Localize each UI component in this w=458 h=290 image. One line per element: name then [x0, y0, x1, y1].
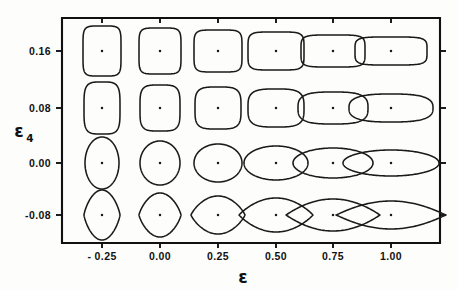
shape-center-dot-r2-c1 — [159, 162, 162, 165]
shape-cell-r1-c2 — [195, 87, 241, 129]
shape-cell-r3-c3 — [239, 198, 313, 232]
shape-row-0p00 — [85, 137, 439, 189]
shape-cell-r2-c5 — [343, 150, 439, 176]
shape-row-0p08 — [84, 82, 433, 134]
shape-cell-r1-c0 — [84, 82, 120, 134]
shape-center-dot-r3-c1 — [159, 214, 162, 217]
shape-contours — [83, 26, 446, 240]
shape-center-dot-r2-c3 — [275, 162, 278, 165]
shape-cell-r0-c1 — [139, 28, 181, 74]
shape-center-dot-r1-c5 — [390, 107, 393, 110]
shape-center-dot-r1-c3 — [275, 107, 278, 110]
y-tick-label-1: 0.08 — [29, 102, 51, 114]
shape-center-dot-r0-c2 — [217, 50, 220, 53]
shape-grid-plot: - 0.250.000.250.500.751.00 0.160.080.00-… — [0, 0, 458, 290]
shape-cell-r0-c0 — [83, 26, 121, 76]
y-tick-label-2: 0.00 — [29, 157, 51, 169]
shape-cell-r1-c5 — [349, 94, 433, 122]
y-axis-title-subscript: 4 — [26, 132, 33, 144]
shape-cell-r2-c2 — [194, 144, 242, 182]
y-axis-title: ε — [14, 121, 23, 141]
y-tick-label-0: 0.16 — [29, 45, 51, 57]
shape-cell-r2-c1 — [140, 141, 180, 185]
shape-cell-r1-c3 — [248, 89, 304, 127]
shape-center-dot-r0-c0 — [101, 50, 104, 53]
shape-center-dot-r2-c5 — [390, 162, 393, 165]
shape-cell-r2-c3 — [244, 146, 308, 180]
shape-center-dot-r1-c1 — [159, 107, 162, 110]
shape-cell-r3-c2 — [191, 196, 245, 234]
shape-center-dot-r0-c3 — [275, 50, 278, 53]
shape-center-dot-r3-c5 — [390, 214, 393, 217]
x-tick-label-3: 0.50 — [265, 250, 287, 262]
shape-row--0p08 — [84, 190, 446, 240]
shape-cell-r2-c0 — [85, 137, 119, 189]
x-tick-label-2: 0.25 — [207, 250, 229, 262]
shape-cell-r0-c5 — [355, 37, 427, 65]
shape-cell-r3-c0 — [84, 190, 120, 240]
shape-center-dot-r0-c1 — [159, 50, 162, 53]
x-tick-label-4: 0.75 — [322, 250, 344, 262]
shape-center-dot-r3-c3 — [275, 214, 278, 217]
shape-center-dot-r1-c4 — [332, 107, 335, 110]
shape-center-dot-r3-c4 — [332, 214, 335, 217]
shape-cell-r3-c5 — [336, 201, 446, 229]
shape-cell-r0-c3 — [248, 32, 304, 70]
shape-center-dot-r0-c4 — [332, 50, 335, 53]
shape-center-dot-r2-c4 — [332, 162, 335, 165]
shape-center-dot-r1-c2 — [217, 107, 220, 110]
y-tick-label-3: -0.08 — [25, 209, 51, 221]
shape-center-dot-r3-c2 — [217, 214, 220, 217]
x-axis-title: ε — [238, 267, 247, 287]
shape-center-dot-r2-c2 — [217, 162, 220, 165]
shape-center-dot-r0-c5 — [390, 50, 393, 53]
shape-cell-r0-c2 — [194, 30, 242, 72]
x-tick-label-1: 0.00 — [149, 250, 171, 262]
x-tick-label-5: 1.00 — [380, 250, 402, 262]
x-axis-tick-labels: - 0.250.000.250.500.751.00 — [87, 250, 402, 262]
shape-center-dot-r1-c0 — [101, 107, 104, 110]
shape-center-dot-r2-c0 — [101, 162, 104, 165]
shape-row-0p16 — [83, 26, 427, 76]
shape-cell-r3-c1 — [139, 193, 181, 237]
shape-cell-r1-c1 — [140, 85, 180, 131]
figure-container: - 0.250.000.250.500.751.00 0.160.080.00-… — [0, 0, 458, 290]
shape-center-dot-r3-c0 — [101, 214, 104, 217]
x-tick-label-0: - 0.25 — [87, 250, 116, 262]
